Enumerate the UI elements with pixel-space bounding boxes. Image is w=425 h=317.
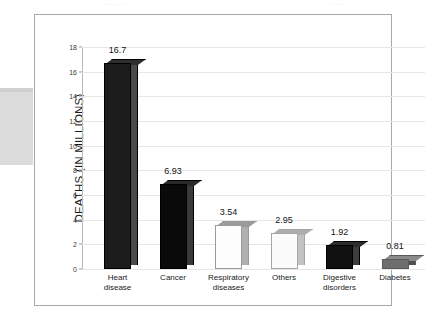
y-tick-label: 18 — [69, 44, 77, 51]
y-tick-mark — [79, 47, 82, 48]
y-tick-mark — [79, 219, 82, 220]
bar-value-label: 1.92 — [331, 227, 349, 237]
y-tick-mark — [79, 71, 82, 72]
bar-group[interactable]: 1.92Digestive disorders — [326, 47, 353, 269]
bar[interactable] — [271, 233, 298, 269]
bar-value-label: 16.7 — [109, 45, 127, 55]
y-tick-mark — [79, 195, 82, 196]
gridline — [82, 269, 425, 270]
cropped-text-artifact-right: ..... — [330, 0, 385, 6]
bar-value-label: 6.93 — [164, 166, 182, 176]
y-tick-mark — [79, 121, 82, 122]
bar-front-face — [271, 233, 298, 269]
bar-value-label: 2.95 — [275, 215, 293, 225]
cropped-text-artifact-left: ........ — [104, 0, 196, 6]
y-tick-label: 12 — [69, 118, 77, 125]
y-tick-label: 6 — [73, 192, 77, 199]
bar-side-face — [130, 59, 138, 265]
y-tick-mark — [79, 170, 82, 171]
y-tick-label: 16 — [69, 68, 77, 75]
bar-front-face — [160, 184, 187, 269]
category-label: Heart disease — [104, 273, 132, 293]
y-tick-mark — [79, 96, 82, 97]
bar-group[interactable]: 3.54Respiratory diseases — [215, 47, 242, 269]
bar-value-label: 3.54 — [220, 207, 238, 217]
bar[interactable] — [215, 225, 242, 269]
bar-front-face — [382, 259, 409, 269]
bar[interactable] — [104, 63, 131, 269]
y-tick-label: 14 — [69, 93, 77, 100]
y-tick-label: 4 — [73, 216, 77, 223]
bar-front-face — [215, 225, 242, 269]
category-label: Diabetes — [379, 273, 411, 283]
y-tick-label: 2 — [73, 241, 77, 248]
bar-group[interactable]: 16.7Heart disease — [104, 47, 131, 269]
bar-group[interactable]: 2.95Others — [271, 47, 298, 269]
chart-frame: DEATHS (IN MILLIONS) 024681012141618 16.… — [34, 14, 392, 306]
bar-value-label: 0.81 — [386, 241, 404, 251]
bar-side-face — [241, 221, 249, 265]
bar-front-face — [326, 245, 353, 269]
gridline — [82, 47, 425, 48]
category-label: Digestive disorders — [323, 273, 356, 293]
plot-area: 024681012141618 16.7Heart disease6.93Can… — [82, 47, 425, 269]
y-tick-mark — [79, 244, 82, 245]
y-tick-label: 0 — [73, 266, 77, 273]
bar-group[interactable]: 0.81Diabetes — [382, 47, 409, 269]
y-tick-mark — [79, 269, 82, 270]
bar-side-face — [186, 180, 194, 265]
bar-group[interactable]: 6.93Cancer — [160, 47, 187, 269]
category-label: Cancer — [160, 273, 186, 283]
y-tick-label: 8 — [73, 167, 77, 174]
category-label: Respiratory diseases — [208, 273, 249, 293]
bar-front-face — [104, 63, 131, 269]
bar[interactable] — [326, 245, 353, 269]
y-axis-line — [82, 47, 83, 269]
y-tick-label: 10 — [69, 142, 77, 149]
page-margin-block — [0, 88, 33, 165]
y-tick-mark — [79, 145, 82, 146]
bar[interactable] — [382, 259, 409, 269]
bar[interactable] — [160, 184, 187, 269]
category-label: Others — [272, 273, 296, 283]
